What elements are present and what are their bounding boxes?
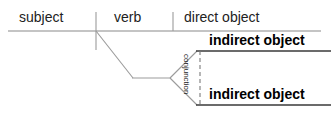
label-indirect-object-2: indirect object <box>209 87 305 101</box>
sentence-diagram: subject verb direct object indirect obje… <box>0 0 335 119</box>
indirect-object-slant-line <box>96 31 133 78</box>
label-conjunction: conjunction <box>182 54 190 94</box>
label-indirect-object-1: indirect object <box>209 33 305 47</box>
label-direct-object: direct object <box>184 10 259 24</box>
label-subject: subject <box>19 10 63 24</box>
label-verb: verb <box>114 10 141 24</box>
